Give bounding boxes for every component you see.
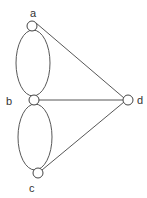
label-d: d: [137, 94, 143, 106]
edge-a-b-pair: [16, 30, 50, 96]
edge-a-d: [36, 23, 124, 98]
edge-b-c-pair: [18, 104, 52, 170]
label-a: a: [30, 7, 37, 19]
node-d: [123, 95, 133, 105]
label-c: c: [29, 182, 35, 194]
label-b: b: [6, 95, 12, 107]
node-c: [33, 168, 43, 178]
node-a: [27, 21, 37, 31]
edge-c-d: [42, 102, 124, 170]
graph-diagram: a b c d: [0, 0, 147, 198]
node-b: [29, 95, 39, 105]
